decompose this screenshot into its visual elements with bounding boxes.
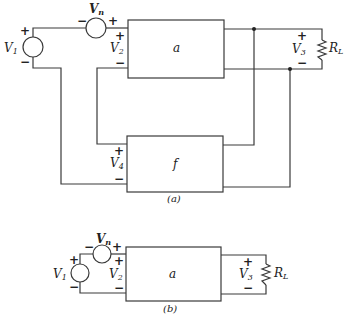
vn-label-b: Vn xyxy=(96,232,111,247)
port-v3-b: + V3 − xyxy=(239,255,253,295)
voltage-source-vn: − + Vn xyxy=(77,2,118,38)
v3-label-b: V3 xyxy=(239,267,253,282)
resistor-zigzag-icon xyxy=(262,264,270,285)
v1-plus-b: + xyxy=(69,253,79,267)
v3-minus-b: − xyxy=(243,281,253,295)
voltage-source-v1-b: + − V1 xyxy=(53,253,89,294)
v2-minus: − xyxy=(115,56,125,70)
amplifier-label: a xyxy=(173,41,180,55)
caption-b: (b) xyxy=(163,303,177,314)
wire-output-top xyxy=(224,29,322,40)
amplifier-block-b: a xyxy=(126,247,221,301)
resistor-zigzag-icon xyxy=(318,40,326,60)
port-v2-b: + V2 − xyxy=(109,254,124,295)
wire-v1-to-vn-b xyxy=(80,254,93,264)
rl-label: RL xyxy=(328,41,343,56)
source-circle-icon xyxy=(93,245,111,263)
circuit-diagram: + − V1 − + Vn a + V2 − + V3 − xyxy=(0,0,347,315)
v1-label: V1 xyxy=(4,41,18,56)
figure-a: + − V1 − + Vn a + V2 − + V3 − xyxy=(4,2,343,204)
vn-plus: + xyxy=(108,14,118,28)
vn-minus: − xyxy=(77,14,87,28)
source-circle-icon xyxy=(23,37,43,57)
vn-minus-b: − xyxy=(84,240,94,254)
v4-label: V4 xyxy=(110,156,124,171)
v3-label: V3 xyxy=(292,42,306,57)
voltage-source-v1: + − V1 xyxy=(4,24,43,69)
rl-label-b: RL xyxy=(273,266,288,281)
wire-output-bottom xyxy=(224,60,322,69)
v2-label: V2 xyxy=(110,41,124,56)
v3-plus: + xyxy=(297,29,307,43)
v2-label-b: V2 xyxy=(109,267,123,282)
port-v2: + V2 − xyxy=(110,29,125,70)
junction-dot xyxy=(252,27,256,31)
port-v3: + V3 − xyxy=(292,29,307,70)
v1-minus-b: − xyxy=(69,280,79,294)
v1-plus: + xyxy=(20,24,30,38)
junction-dot xyxy=(288,67,292,71)
v4-minus: − xyxy=(114,172,124,186)
v2-minus-b: − xyxy=(114,281,124,295)
feedback-block-f: f xyxy=(127,136,223,192)
v3-minus: − xyxy=(297,56,307,70)
wire-amp-minus-to-feedback xyxy=(97,68,128,144)
load-resistor-b: RL xyxy=(262,264,288,285)
load-resistor-a: RL xyxy=(318,40,343,60)
figure-b: + − V1 − + Vn a + V2 − + V3 − xyxy=(53,232,288,314)
v1-minus: − xyxy=(20,55,30,69)
v2-plus-b: + xyxy=(114,254,124,268)
caption-a: (a) xyxy=(167,193,181,204)
source-circle-icon xyxy=(86,18,106,38)
vn-label: Vn xyxy=(89,2,104,17)
wire-v1-to-vn xyxy=(33,28,86,37)
wire-sense-bottom xyxy=(223,69,290,187)
amplifier-label-b: a xyxy=(169,267,176,281)
amplifier-block-a: a xyxy=(128,20,224,78)
vn-plus-b: + xyxy=(112,240,122,254)
port-v4: + V4 − xyxy=(110,144,124,186)
v1-label-b: V1 xyxy=(53,267,67,282)
wire-sense-top xyxy=(223,29,254,145)
